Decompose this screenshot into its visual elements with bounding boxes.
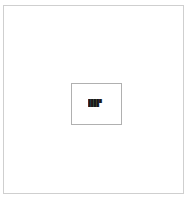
page-frame: █████ ████ [3,5,184,194]
dialog-box[interactable]: █████ ████ [71,83,122,125]
dialog-text-block: █████ ████ [88,99,122,107]
dialog-text-line-2: ████ [88,103,103,107]
